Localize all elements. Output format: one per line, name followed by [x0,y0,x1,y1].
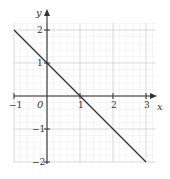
y-axis-label: y [35,7,42,18]
x-tick-label-1: 1 [78,100,84,110]
line-chart: x y 0 −1 1 2 3 2 1 −1 −2 [0,0,170,179]
x-tick-label-2: 2 [111,100,117,110]
y-tick-label-neg2: −2 [32,157,45,167]
x-axis-label: x [157,101,163,112]
x-tick-label-3: 3 [144,100,150,110]
x-tick-label-neg1: −1 [9,100,22,110]
y-tick-label-neg1: −1 [32,124,45,134]
y-tick-label-2: 2 [37,25,43,35]
y-tick-label-1: 1 [37,58,43,68]
minor-grid [14,23,156,162]
y-axis-arrow-icon [44,9,50,16]
major-grid [14,23,156,162]
x-axis-arrow-icon [150,93,157,99]
origin-label: 0 [37,99,44,110]
